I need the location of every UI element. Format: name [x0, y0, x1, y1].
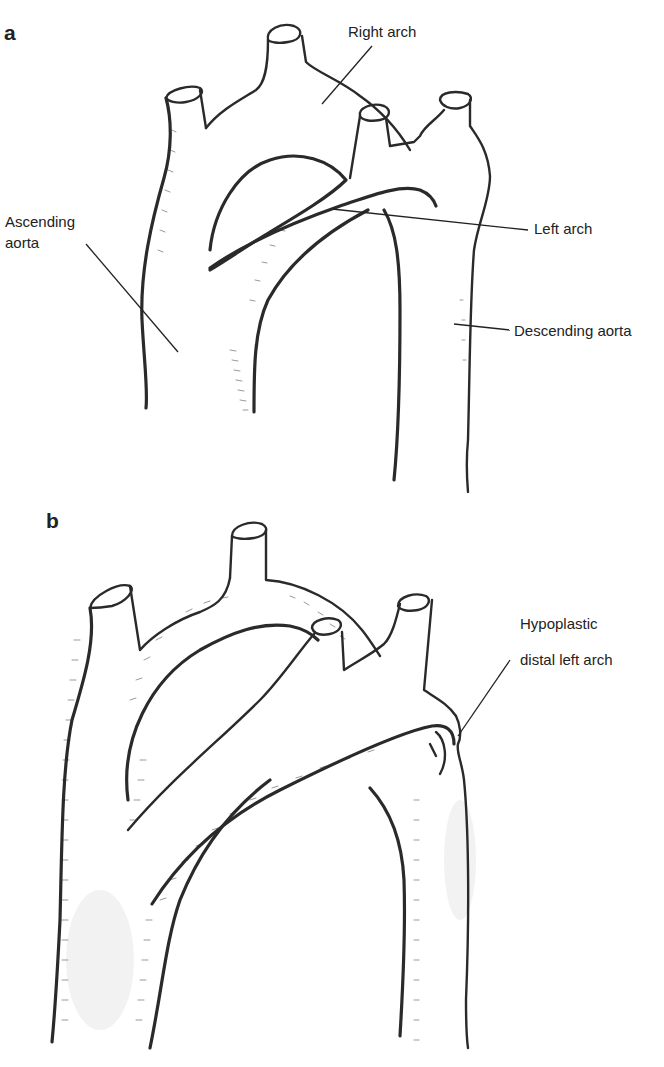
- b-right-arch-branch-1: [90, 585, 132, 608]
- label-ascending-aorta-line2: aorta: [5, 234, 40, 251]
- label-hypoplastic-line1: Hypoplastic: [520, 615, 598, 632]
- label-left-arch: Left arch: [534, 220, 592, 237]
- figure-canvas: a: [0, 0, 664, 1067]
- right-arch-branch-2: [268, 25, 300, 43]
- right-arch-upper-contour: [206, 40, 268, 128]
- b-right-arch-branch-2: [232, 523, 266, 539]
- leader-descending-aorta: [454, 324, 510, 330]
- panel-b: b: [46, 509, 613, 1048]
- right-arch-inner-loop: [210, 156, 346, 270]
- shade-ascending: [66, 890, 134, 1030]
- panel-b-vessel-drawing: [52, 523, 476, 1048]
- b-left-arch-branch-2: [398, 594, 429, 610]
- b-hypoplastic-segment: [430, 732, 445, 774]
- label-descending-aorta: Descending aorta: [514, 322, 632, 339]
- panel-a-vessel-drawing: [142, 25, 490, 492]
- b-descending-aorta-inner-wall: [370, 788, 405, 1036]
- leader-ascending-aorta: [86, 244, 178, 352]
- panel-b-letter: b: [46, 509, 59, 532]
- label-right-arch: Right arch: [348, 23, 416, 40]
- label-ascending-aorta-line1: Ascending: [5, 213, 75, 230]
- b-left-arch-branch-1: [312, 618, 341, 634]
- panel-a-letter: a: [4, 21, 16, 44]
- leader-right-arch: [322, 46, 372, 104]
- descending-aorta-inner-wall: [384, 210, 400, 480]
- panel-a: a: [4, 21, 632, 492]
- panel-a-shading: [158, 130, 466, 410]
- right-arch-branch-1: [166, 87, 202, 103]
- leader-left-arch: [332, 209, 528, 230]
- b-ascending-aorta-right-wall: [150, 780, 270, 1048]
- b-right-arch-inner-loop: [127, 625, 318, 800]
- ascending-aorta-left-wall: [142, 98, 170, 408]
- leader-hypoplastic: [458, 660, 510, 736]
- left-arch-branch-2: [440, 92, 471, 109]
- b-left-arch-lower-wall: [152, 726, 454, 904]
- label-hypoplastic-line2: distal left arch: [520, 651, 613, 668]
- shade-descending: [444, 800, 476, 920]
- ascending-aorta-right-wall: [254, 210, 368, 412]
